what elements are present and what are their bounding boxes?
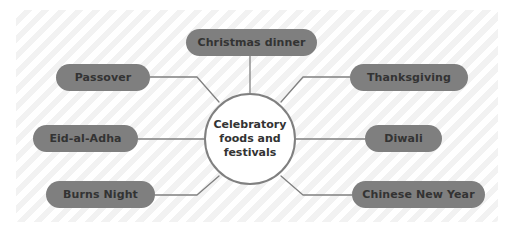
node-thanksgiving[interactable]: Thanksgiving [350, 64, 468, 91]
node-passover[interactable]: Passover [56, 64, 150, 91]
node-chinese-new-year[interactable]: Chinese New Year [352, 181, 485, 208]
node-thanksgiving-label: Thanksgiving [367, 72, 451, 83]
node-diwali-label: Diwali [384, 133, 423, 144]
node-christmas-dinner-label: Christmas dinner [198, 37, 306, 48]
node-eid-al-adha[interactable]: Eid-al-Adha [33, 125, 138, 152]
node-passover-label: Passover [75, 72, 132, 83]
node-burns-night-label: Burns Night [63, 189, 138, 200]
node-christmas-dinner[interactable]: Christmas dinner [186, 29, 317, 56]
center-node-label: Celebratory foods and festivals [206, 118, 294, 160]
node-eid-al-adha-label: Eid-al-Adha [49, 133, 121, 144]
center-node[interactable]: Celebratory foods and festivals [204, 93, 296, 185]
node-burns-night[interactable]: Burns Night [46, 181, 155, 208]
node-chinese-new-year-label: Chinese New Year [362, 189, 474, 200]
node-diwali[interactable]: Diwali [365, 125, 442, 152]
mind-map-canvas: Celebratory foods and festivals Christma… [0, 0, 514, 231]
